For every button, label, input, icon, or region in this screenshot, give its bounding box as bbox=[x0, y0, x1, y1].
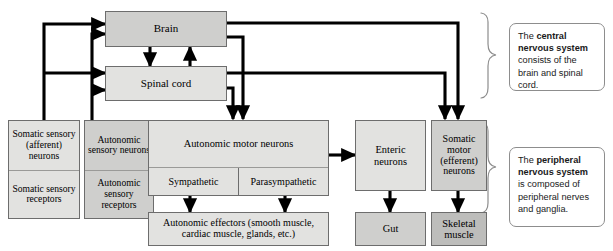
box-somatic-sensory-receptors-label: Somatic sensory receptors bbox=[12, 184, 76, 205]
box-sympathetic[interactable]: Sympathetic bbox=[149, 168, 238, 195]
box-parasympathetic[interactable]: Parasympathetic bbox=[238, 168, 328, 195]
box-autonomic-motor-neurons-label: Autonomic motor neurons bbox=[184, 138, 294, 149]
callout-cns-tail: consists of the brain and spinal cord. bbox=[518, 55, 583, 89]
column-autonomic-sensory[interactable]: Autonomic sensory neurons Autonomic sens… bbox=[84, 120, 154, 219]
callout-central-nervous-system: The central nervous system consists of t… bbox=[509, 23, 605, 91]
box-autonomic-sensory-receptors[interactable]: Autonomic sensory receptors bbox=[85, 170, 153, 219]
box-somatic-motor-neurons[interactable]: Somatic motor (efferent) neurons bbox=[431, 120, 487, 191]
brace-cns bbox=[481, 13, 496, 98]
box-autonomic-effectors-label: Autonomic effectors (smooth muscle, card… bbox=[154, 218, 323, 240]
box-skeletal-muscle-label: Skeletal muscle bbox=[434, 218, 484, 240]
box-autonomic-sensory-neurons-label: Autonomic sensory neurons bbox=[87, 135, 151, 156]
box-sympathetic-label: Sympathetic bbox=[169, 176, 219, 187]
box-spinal-cord-label: Spinal cord bbox=[141, 78, 191, 90]
column-somatic-sensory[interactable]: Somatic sensory (afferent) neurons Somat… bbox=[8, 120, 80, 219]
box-somatic-sensory-neurons[interactable]: Somatic sensory (afferent) neurons bbox=[9, 121, 79, 170]
box-somatic-sensory-receptors[interactable]: Somatic sensory receptors bbox=[9, 170, 79, 219]
nervous-system-diagram: Brain Spinal cord Somatic sensory (affer… bbox=[0, 0, 613, 251]
box-autonomic-motor-neurons[interactable]: Autonomic motor neurons bbox=[149, 121, 328, 167]
box-enteric-neurons[interactable]: Enteric neurons bbox=[355, 120, 426, 191]
callout-cns-lead: The bbox=[518, 31, 536, 41]
box-autonomic-sensory-receptors-label: Autonomic sensory receptors bbox=[87, 178, 151, 210]
box-somatic-motor-neurons-label: Somatic motor (efferent) neurons bbox=[434, 134, 484, 177]
box-somatic-sensory-neurons-label: Somatic sensory (afferent) neurons bbox=[12, 129, 76, 161]
box-gut-label: Gut bbox=[383, 223, 399, 234]
box-gut[interactable]: Gut bbox=[355, 212, 426, 246]
callout-peripheral-nervous-system: The peripheral nervous system is compose… bbox=[509, 147, 605, 227]
box-skeletal-muscle[interactable]: Skeletal muscle bbox=[431, 212, 487, 246]
box-autonomic-effectors[interactable]: Autonomic effectors (smooth muscle, card… bbox=[148, 212, 329, 246]
callout-pns-lead: The bbox=[518, 155, 536, 165]
box-brain[interactable]: Brain bbox=[105, 11, 227, 47]
callout-pns-tail: is composed of peripheral nerves and gan… bbox=[518, 179, 589, 213]
box-enteric-neurons-label: Enteric neurons bbox=[360, 144, 421, 166]
box-spinal-cord[interactable]: Spinal cord bbox=[105, 66, 227, 101]
box-parasympathetic-label: Parasympathetic bbox=[250, 176, 316, 187]
row-autonomic-divisions: Sympathetic Parasympathetic bbox=[149, 167, 328, 195]
box-brain-label: Brain bbox=[154, 23, 178, 35]
box-autonomic-sensory-neurons[interactable]: Autonomic sensory neurons bbox=[85, 121, 153, 170]
group-autonomic-motor[interactable]: Autonomic motor neurons Sympathetic Para… bbox=[148, 120, 329, 196]
